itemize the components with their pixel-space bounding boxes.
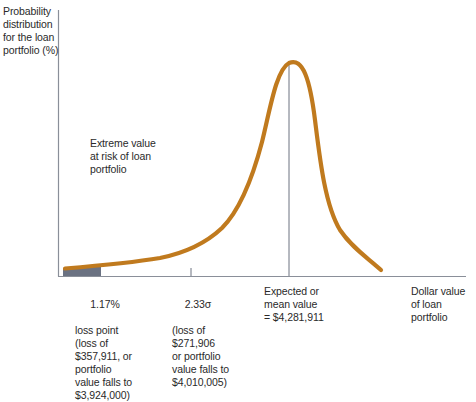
sigma-value-label: 2.33σ [172, 298, 224, 311]
sigma-label: 2.33σ (loss of $271,906 or portfolio val… [172, 285, 252, 389]
x-axis-title: Dollar value of loan portfolio [411, 285, 476, 324]
var-loss-point-label: 1.17% loss point (loss of $357,911, or p… [75, 285, 155, 402]
var-detail-label: loss point (loss of $357,911, or portfol… [75, 324, 132, 401]
sigma-detail-label: (loss of $271,906 or portfolio value fal… [172, 324, 229, 388]
extreme-var-annotation: Extreme value at risk of loan portfolio [90, 137, 200, 176]
y-axis-title: Probability distribution for the loan po… [3, 5, 59, 57]
mean-value-label: Expected or mean value = $4,281,911 [264, 285, 354, 324]
var-percent-label: 1.17% [75, 298, 135, 311]
